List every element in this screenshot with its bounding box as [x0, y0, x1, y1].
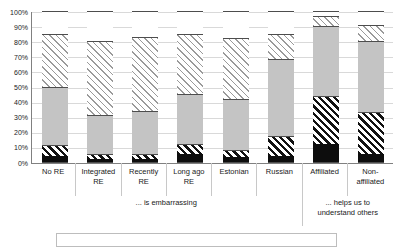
bar-segment-segment-5 [132, 11, 158, 37]
bar-segment-segment-1 [177, 154, 203, 162]
plot-area [31, 12, 393, 164]
category-label: Estonian [220, 167, 249, 177]
stacked-bar[interactable] [177, 12, 203, 163]
bar-segment-segment-4 [42, 34, 68, 87]
bar-segment-segment-3 [223, 99, 249, 150]
category-label-line: Recently [129, 167, 158, 177]
group-cell-0: ... is embarrassing [31, 196, 303, 226]
bar-slot [258, 12, 303, 163]
category-cell-7: Non-affiliated [348, 163, 393, 196]
category-label: IntegratedRE [81, 167, 115, 186]
group-label-line: ... is embarrassing [136, 198, 197, 208]
category-label-line: No RE [42, 167, 64, 177]
bar-segment-segment-5 [87, 11, 113, 41]
bar-segment-segment-4 [358, 25, 384, 42]
y-axis-tick-label: 50% [14, 84, 28, 91]
category-cell-5: Russian [257, 163, 302, 196]
stacked-bar[interactable] [132, 12, 158, 163]
category-label-line: RE [81, 177, 115, 187]
category-label-line: Russian [266, 167, 293, 177]
bar-segment-segment-3 [268, 59, 294, 136]
stacked-bar[interactable] [223, 12, 249, 163]
bar-slot [213, 12, 258, 163]
bar-slot [77, 12, 122, 163]
category-cell-0: No RE [31, 163, 76, 196]
y-axis-tick-label: 80% [14, 39, 28, 46]
y-axis-tick-label: 100% [10, 9, 28, 16]
bar-segment-segment-3 [358, 41, 384, 112]
category-label-line: RE [173, 177, 204, 187]
category-label-line: Integrated [81, 167, 115, 177]
y-axis-tick-label: 60% [14, 69, 28, 76]
bar-segment-segment-4 [177, 34, 203, 94]
bar-segment-segment-5 [177, 11, 203, 34]
bar-segment-segment-2 [358, 112, 384, 154]
category-label: RecentlyRE [129, 167, 158, 186]
legend-box [56, 233, 337, 247]
category-label-line: affiliated [356, 177, 384, 187]
y-axis-tick-label: 10% [14, 144, 28, 151]
bar-segment-segment-2 [87, 154, 113, 159]
bar-slot [168, 12, 213, 163]
category-cell-6: Affiliated [303, 163, 348, 196]
y-axis-tick-label: 70% [14, 54, 28, 61]
bar-segment-segment-4 [132, 37, 158, 111]
bar-segment-segment-2 [268, 136, 294, 156]
bar-segment-segment-2 [177, 144, 203, 155]
group-axis: ... is embarrassing... helps us tounders… [31, 196, 393, 226]
group-label: ... helps us tounderstand others [318, 198, 378, 217]
stacked-bar[interactable] [313, 12, 339, 163]
stacked-bar[interactable] [268, 12, 294, 163]
y-axis-tick-label: 40% [14, 99, 28, 106]
bar-segment-segment-1 [313, 144, 339, 162]
category-cell-1: IntegratedRE [76, 163, 121, 196]
category-label: Long agoRE [173, 167, 204, 186]
bar-segment-segment-5 [268, 11, 294, 34]
category-label-line: Non- [356, 167, 384, 177]
bar-segment-segment-4 [268, 34, 294, 60]
bar-segment-segment-1 [223, 157, 249, 162]
bar-segment-segment-5 [358, 11, 384, 25]
bar-segment-segment-2 [313, 96, 339, 144]
bar-segment-segment-4 [313, 16, 339, 27]
category-label-line: Affiliated [310, 167, 339, 177]
y-axis-tick-label: 20% [14, 129, 28, 136]
bar-segment-segment-2 [223, 150, 249, 158]
bar-segment-segment-3 [42, 87, 68, 146]
stacked-bar[interactable] [87, 12, 113, 163]
bar-segment-segment-3 [87, 115, 113, 154]
category-label-line: Estonian [220, 167, 249, 177]
y-axis: 100%90%80%70%60%50%40%30%20%10%0% [0, 0, 30, 175]
category-label-line: Long ago [173, 167, 204, 177]
bar-segment-segment-4 [87, 41, 113, 115]
bar-slot [123, 12, 168, 163]
category-cell-3: Long agoRE [167, 163, 212, 196]
stacked-bar[interactable] [358, 12, 384, 163]
category-label: No RE [42, 167, 64, 177]
bar-segment-segment-1 [87, 159, 113, 162]
bar-segment-segment-5 [223, 11, 249, 38]
y-axis-tick-label: 90% [14, 24, 28, 31]
bar-segment-segment-5 [313, 11, 339, 16]
category-cell-4: Estonian [212, 163, 257, 196]
category-label-line: RE [129, 177, 158, 187]
bar-segment-segment-1 [132, 159, 158, 162]
stacked-bar[interactable] [42, 12, 68, 163]
group-cell-1: ... helps us tounderstand others [303, 196, 393, 226]
category-cell-2: RecentlyRE [122, 163, 167, 196]
group-label-line: ... helps us to [318, 198, 378, 208]
group-label-line: understand others [318, 208, 378, 218]
bar-segment-segment-2 [42, 145, 68, 156]
bar-segment-segment-1 [358, 154, 384, 162]
group-label: ... is embarrassing [136, 198, 197, 208]
bar-slot [349, 12, 393, 163]
category-label: Affiliated [310, 167, 339, 177]
category-axis: No REIntegratedRERecentlyRELong agoREEst… [31, 163, 393, 196]
y-axis-tick-label: 0% [18, 160, 28, 167]
bar-segment-segment-1 [42, 156, 68, 162]
y-axis-tick-label: 30% [14, 114, 28, 121]
bar-slot [304, 12, 349, 163]
bar-segment-segment-3 [132, 111, 158, 155]
bar-segment-segment-3 [177, 94, 203, 144]
